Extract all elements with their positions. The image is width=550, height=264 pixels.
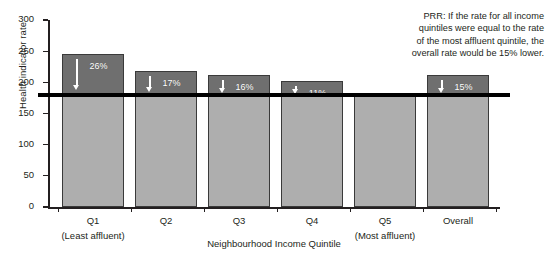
bar-q3-excess: 16% xyxy=(208,75,270,95)
x-tick-3 xyxy=(277,207,278,212)
chart-figure: Health indicator rate 0 50 100 150 200 2… xyxy=(0,0,550,264)
bar-q1-prr: 26% xyxy=(63,55,123,94)
x-tick-6 xyxy=(496,207,497,212)
x-label-q1: Q1 xyxy=(87,216,100,226)
x-label-q5: Q5 xyxy=(379,216,392,226)
bar-q2-excess: 17% xyxy=(135,71,197,95)
y-tick-0: 0 xyxy=(43,206,48,207)
bar-q1-excess: 26% xyxy=(62,54,124,95)
y-tick-150: 150 xyxy=(43,113,48,114)
reference-line xyxy=(38,93,510,96)
prr-annotation-line-1: PRR: If the rate for all income xyxy=(372,10,544,22)
bar-q4[interactable]: 11% xyxy=(281,81,343,207)
x-axis-line xyxy=(48,207,500,209)
y-tick-label-0: 0 xyxy=(29,202,34,212)
x-label-q3: Q3 xyxy=(233,216,246,226)
y-axis-line xyxy=(48,20,50,207)
y-tick-300: 300 xyxy=(43,19,48,20)
prr-annotation-line-2: quintiles were equal to the rate xyxy=(372,22,544,34)
x-tick-2 xyxy=(204,207,205,212)
y-tick-label-300: 300 xyxy=(18,15,34,25)
x-tick-4 xyxy=(350,207,351,212)
y-tick-label-100: 100 xyxy=(18,139,34,149)
x-label-overall: Overall xyxy=(443,216,473,226)
prr-annotation-line-3: of the most affluent quintile, the xyxy=(372,35,544,47)
x-label-q2: Q2 xyxy=(160,216,173,226)
y-tick-label-150: 150 xyxy=(18,108,34,118)
y-tick-50: 50 xyxy=(43,175,48,176)
y-tick-label-250: 250 xyxy=(18,46,34,56)
y-tick-250: 250 xyxy=(43,51,48,52)
x-tick-0 xyxy=(58,207,59,212)
bar-q2-prr: 17% xyxy=(136,72,196,94)
bar-overall-prr: 15% xyxy=(428,76,488,94)
y-tick-label-200: 200 xyxy=(18,77,34,87)
bar-q3-label: 16% xyxy=(235,83,253,92)
y-tick-100: 100 xyxy=(43,144,48,145)
bar-q2-label: 17% xyxy=(162,79,180,88)
prr-annotation: PRR: If the rate for all income quintile… xyxy=(372,10,544,59)
bar-q5[interactable] xyxy=(354,95,416,207)
x-tick-5 xyxy=(423,207,424,212)
bar-q2[interactable]: 17% xyxy=(135,71,197,207)
prr-annotation-line-4: overall rate would be 15% lower. xyxy=(372,47,544,59)
x-label-q4: Q4 xyxy=(306,216,319,226)
bar-overall-label: 15% xyxy=(454,83,472,92)
y-tick-label-50: 50 xyxy=(23,170,34,180)
bar-overall-excess: 15% xyxy=(427,75,489,95)
bar-q1[interactable]: 26% xyxy=(62,54,124,207)
bar-q1-label: 26% xyxy=(89,62,107,71)
y-tick-200: 200 xyxy=(43,82,48,83)
bar-q4-prr: 11% xyxy=(282,82,342,94)
x-axis-title: Neighbourhood Income Quintile xyxy=(48,238,500,249)
bar-q3-prr: 16% xyxy=(209,76,269,94)
x-tick-1 xyxy=(131,207,132,212)
